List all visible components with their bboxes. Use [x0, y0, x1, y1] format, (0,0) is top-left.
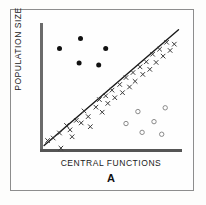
data-point-cross	[59, 146, 63, 150]
data-point-open-circle	[136, 109, 140, 113]
data-point-cross	[110, 88, 114, 92]
cross-marker-series	[46, 40, 177, 150]
data-point-cross	[88, 125, 92, 129]
data-point-cross	[144, 60, 148, 64]
data-point-cross	[121, 91, 125, 95]
scatter-marks-canvas	[0, 0, 206, 205]
data-point-cross	[68, 128, 72, 132]
data-point-open-circle	[140, 130, 144, 134]
data-point-cross	[141, 72, 145, 76]
data-point-open-circle	[160, 132, 164, 136]
data-point-cross	[106, 101, 110, 105]
data-point-open-circle	[163, 106, 167, 110]
data-point-cross	[148, 67, 152, 71]
data-point-cross	[82, 109, 86, 113]
data-point-open-circle	[124, 121, 128, 125]
data-point-cross	[94, 105, 98, 109]
data-point-cross	[172, 42, 176, 46]
data-point-cross	[165, 40, 169, 44]
data-point-cross	[113, 96, 117, 100]
data-point-filled-circle	[103, 46, 108, 51]
data-point-cross	[161, 54, 165, 58]
data-point-cross	[118, 82, 122, 86]
data-point-filled-circle	[77, 61, 82, 66]
data-point-cross	[128, 85, 132, 89]
data-point-cross	[138, 65, 142, 69]
data-point-cross	[131, 71, 135, 75]
data-point-filled-circle	[57, 46, 62, 51]
regression-line	[44, 30, 178, 146]
data-point-cross	[158, 47, 162, 51]
data-point-cross	[70, 135, 74, 139]
data-point-cross	[100, 110, 104, 114]
open-circle-series	[124, 106, 168, 137]
data-point-cross	[124, 76, 128, 80]
filled-circle-series	[57, 36, 108, 67]
trend-line-group	[44, 30, 178, 146]
data-point-cross	[74, 118, 78, 122]
data-point-cross	[104, 94, 108, 98]
data-point-cross	[79, 121, 83, 125]
data-point-filled-circle	[78, 36, 83, 41]
data-point-cross	[86, 115, 90, 119]
data-point-cross	[133, 79, 137, 83]
figure-root: POPULATION SIZE CENTRAL FUNCTIONS A	[0, 0, 206, 205]
data-point-cross	[168, 48, 172, 52]
data-point-open-circle	[152, 119, 156, 123]
data-point-filled-circle	[96, 62, 101, 67]
data-point-cross	[154, 60, 158, 64]
